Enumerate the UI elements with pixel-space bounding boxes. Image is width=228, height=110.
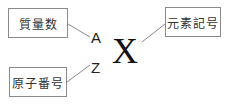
mass-number-letter: A — [91, 30, 101, 45]
atomic-number-box: 原子番号 — [9, 67, 67, 97]
element-symbol-box: 元素記号 — [165, 7, 221, 37]
mass-number-box: 質量数 — [8, 8, 68, 38]
element-symbol-letter: X — [112, 33, 138, 69]
connector-mass — [68, 24, 90, 37]
element-symbol-label: 元素記号 — [167, 14, 219, 31]
mass-number-label: 質量数 — [19, 15, 58, 32]
connector-atomic — [67, 65, 90, 82]
atomic-number-label: 原子番号 — [12, 74, 64, 91]
connector-symbol — [142, 24, 165, 42]
atomic-number-letter: Z — [91, 60, 100, 75]
